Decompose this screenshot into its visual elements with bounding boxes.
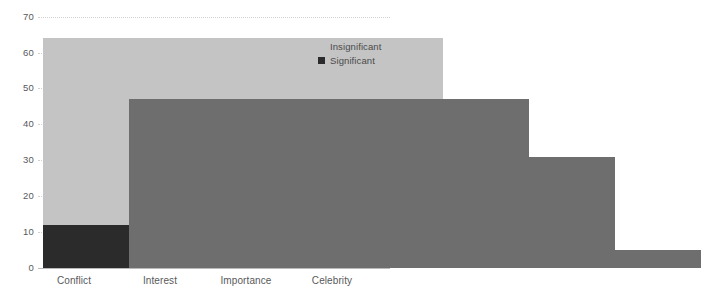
legend-swatch-significant-icon — [318, 57, 325, 64]
gridline-70 — [38, 17, 390, 18]
legend-item-insignificant[interactable]: Insignificant — [318, 40, 381, 53]
bar-celebrity[interactable] — [301, 250, 701, 268]
y-tick-label-50: 50 — [4, 83, 34, 93]
y-tick-label-60: 60 — [4, 48, 34, 58]
axis-baseline — [38, 268, 390, 269]
chart-legend: Insignificant Significant — [318, 40, 381, 68]
y-tick-label-0: 0 — [4, 263, 34, 273]
legend-swatch-insignificant-icon — [318, 43, 325, 50]
x-tick-label-celebrity: Celebrity — [277, 276, 387, 286]
legend-item-significant[interactable]: Significant — [318, 54, 381, 67]
legend-label-significant: Significant — [330, 56, 375, 66]
y-tick-label-10: 10 — [4, 227, 34, 237]
y-tick-label-30: 30 — [4, 155, 34, 165]
legend-label-insignificant: Insignificant — [330, 42, 381, 52]
y-tick-label-20: 20 — [4, 191, 34, 201]
y-tick-label-70: 70 — [4, 12, 34, 22]
y-tick-label-40: 40 — [4, 119, 34, 129]
